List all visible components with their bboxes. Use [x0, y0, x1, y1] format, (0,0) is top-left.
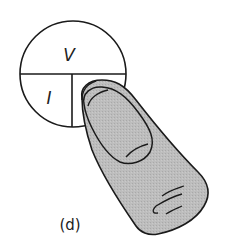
current-label: I: [46, 88, 51, 108]
figure-caption: (d): [59, 216, 80, 234]
diagram-figure: V I (d): [0, 0, 225, 248]
voltage-label: V: [63, 45, 76, 65]
finger-illustration: [82, 80, 208, 235]
